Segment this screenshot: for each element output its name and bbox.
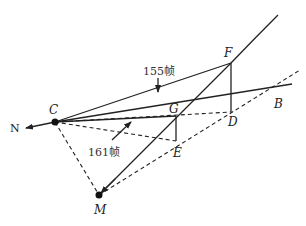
north-label: N	[10, 122, 20, 135]
dashed-m-b	[99, 70, 300, 195]
dashed-c-e	[55, 122, 176, 141]
geometry-diagram: N 155帧 161帧 C F G D B E M	[0, 0, 306, 226]
label-d: D	[227, 115, 238, 129]
point-m	[96, 192, 103, 199]
point-c	[52, 119, 59, 126]
label-161-frame: 161帧	[88, 145, 120, 159]
arrow-161	[112, 122, 131, 140]
label-c: C	[49, 103, 58, 117]
north-arrow	[26, 122, 55, 128]
label-155-frame: 155帧	[143, 64, 175, 78]
label-f: F	[223, 46, 233, 60]
line-m-f	[99, 63, 231, 195]
label-m: M	[93, 203, 107, 217]
curve-f-up	[231, 15, 278, 63]
label-b: B	[273, 97, 283, 111]
label-e: E	[172, 146, 182, 160]
label-g: G	[169, 102, 179, 116]
